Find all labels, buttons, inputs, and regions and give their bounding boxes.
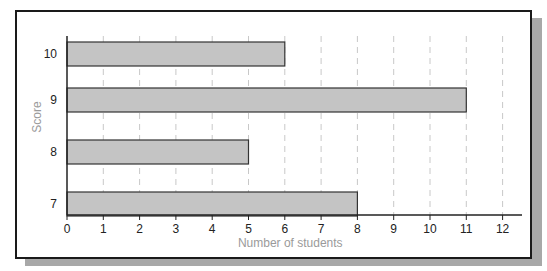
x-tick-label: 0 xyxy=(64,222,71,236)
y-tick-label: 8 xyxy=(50,145,57,159)
x-tick-label: 6 xyxy=(281,222,288,236)
x-tick-label: 7 xyxy=(318,222,325,236)
bar-score-10 xyxy=(67,42,285,66)
bar-chart: 109870123456789101112Number of studentsS… xyxy=(0,0,547,271)
bar-score-7 xyxy=(67,192,357,216)
y-tick-label: 9 xyxy=(50,93,57,107)
bar-score-8 xyxy=(67,140,249,164)
x-tick-label: 3 xyxy=(173,222,180,236)
y-tick-label: 10 xyxy=(44,47,58,61)
x-tick-label: 9 xyxy=(390,222,397,236)
y-axis-label: Score xyxy=(30,101,44,133)
x-tick-label: 2 xyxy=(136,222,143,236)
x-tick-label: 11 xyxy=(460,222,473,236)
x-tick-label: 8 xyxy=(354,222,361,236)
x-tick-label: 5 xyxy=(245,222,252,236)
x-tick-label: 1 xyxy=(100,222,107,236)
bar-score-9 xyxy=(67,88,466,112)
y-tick-label: 7 xyxy=(50,197,57,211)
x-tick-label: 12 xyxy=(496,222,510,236)
x-tick-label: 10 xyxy=(423,222,437,236)
x-tick-label: 4 xyxy=(209,222,216,236)
x-axis-label: Number of students xyxy=(238,236,343,250)
